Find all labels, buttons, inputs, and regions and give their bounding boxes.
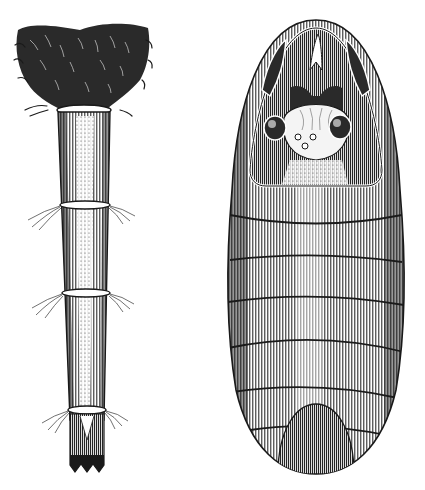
ocellus-left [295,134,301,140]
engraving-illustration [0,0,425,490]
larval-case-figure [14,24,152,472]
compound-eye-left [264,116,286,140]
ocellus-right [310,134,316,140]
compound-eye-right [329,115,351,139]
pupa-figure [226,20,408,480]
hair-tuft [14,24,152,116]
ocellus-center [302,143,308,149]
